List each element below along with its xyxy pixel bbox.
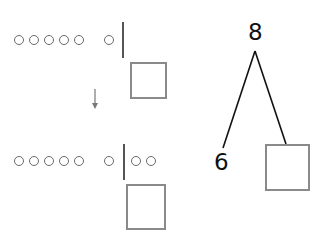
part-right-answer-box[interactable] (265, 144, 310, 191)
whole-number: 8 (248, 21, 263, 44)
circle-right (131, 156, 141, 166)
circle-extra (104, 156, 114, 166)
circle (44, 156, 54, 166)
bottom-answer-box[interactable] (126, 184, 166, 230)
circle (74, 156, 84, 166)
number-bond-lines (223, 51, 286, 148)
down-arrow-icon (92, 89, 98, 109)
circle (59, 156, 69, 166)
circle-right (146, 156, 156, 166)
part-left-number: 6 (214, 151, 229, 174)
circle (29, 156, 39, 166)
circle (14, 156, 24, 166)
bottom-divider (123, 144, 125, 180)
